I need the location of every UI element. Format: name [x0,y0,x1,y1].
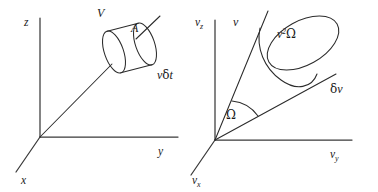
cylinder-back-face [98,28,130,76]
left-panel-group: z y x V A vδt [16,6,178,186]
right-vx-axis [191,140,215,175]
right-vy-axis-label: vy [330,148,339,163]
vx-subscript: x [196,180,201,189]
svg-text:v2Ω: v2Ω [277,27,296,41]
left-z-axis-label: z [23,16,29,28]
svg-text:vy: vy [330,148,339,163]
length-label-delta-part: δ [162,68,169,82]
thickness-v: v [337,82,343,96]
left-position-vector [40,64,112,137]
vy-subscript: y [334,154,339,163]
physics-figure-svg: z y x V A vδt [0,0,378,192]
left-x-axis-label: x [20,174,27,186]
cone-thickness-label: δv [330,82,343,96]
right-panel-group: vz vy vx v v2Ω [191,5,352,189]
thickness-delta: δ [330,82,337,96]
left-y-axis-label: y [157,145,164,158]
svg-text:vx: vx [192,174,201,189]
svg-text:vz: vz [195,16,204,31]
svg-text:δv: δv [330,82,343,96]
right-vx-axis-label: vx [192,174,201,189]
svg-text:vδt: vδt [157,68,174,82]
cone-lower-edge [215,74,336,140]
cylinder-area-label: A [130,21,139,35]
left-x-axis [16,137,40,172]
solid-angle-label: Ω [226,108,236,122]
cone-speed-label: v [233,15,239,29]
cylinder-length-label: vδt [157,68,174,82]
cone-outer-cap [258,5,348,81]
cylinder-volume-label: V [97,6,106,20]
area-leader-line [136,16,160,39]
right-vz-axis-label: vz [195,16,204,31]
cone-cap-area-label: v2Ω [277,27,296,41]
length-label-t-part: t [170,68,174,82]
figure-root: z y x V A vδt [0,0,378,192]
vz-subscript: z [199,22,204,31]
cap-area-omega: Ω [286,27,296,41]
